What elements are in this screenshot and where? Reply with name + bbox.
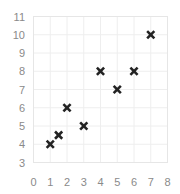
x-tick-label: 8 <box>164 176 170 188</box>
x-tick-label: 2 <box>64 176 70 188</box>
y-axis-ticks: 34567891011 <box>13 11 25 169</box>
y-tick-label: 5 <box>19 120 25 132</box>
x-tick-label: 5 <box>114 176 120 188</box>
y-tick-label: 8 <box>19 65 25 77</box>
y-tick-label: 4 <box>19 138 25 150</box>
x-tick-label: 6 <box>131 176 137 188</box>
scatter-chart: 34567891011 012345678 <box>0 0 180 194</box>
x-axis-ticks: 012345678 <box>30 176 170 188</box>
y-tick-label: 3 <box>19 157 25 169</box>
x-tick-label: 3 <box>81 176 87 188</box>
x-marker-icon <box>55 132 62 139</box>
y-tick-label: 7 <box>19 84 25 96</box>
x-tick-label: 4 <box>97 176 103 188</box>
y-tick-label: 11 <box>14 11 25 23</box>
y-tick-label: 10 <box>13 29 25 41</box>
y-tick-label: 6 <box>19 102 25 114</box>
x-tick-label: 1 <box>47 176 53 188</box>
y-tick-label: 9 <box>19 47 25 59</box>
x-tick-label: 0 <box>30 176 36 188</box>
x-tick-label: 7 <box>148 176 154 188</box>
